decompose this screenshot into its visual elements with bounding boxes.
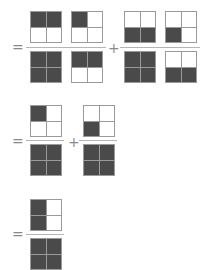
square-r1-t3-num: [124, 11, 156, 43]
fraction-bar-3: [26, 140, 64, 141]
square-r1-t2-num: [71, 11, 103, 43]
square-r2-t2-den: [83, 144, 115, 176]
square-r1-t4-den: [165, 51, 197, 83]
equals-sign-2: =: [12, 134, 24, 148]
square-r3-t1-den: [30, 238, 62, 270]
fraction-bar-5: [26, 234, 64, 235]
square-r1-t2-den: [71, 51, 103, 83]
square-r1-t1-num: [30, 11, 62, 43]
square-r1-t1-den: [30, 51, 62, 83]
plus-sign-1: +: [108, 41, 120, 55]
square-r2-t1-num: [30, 105, 62, 137]
fraction-bar-1: [26, 47, 106, 48]
square-r3-t1-num: [30, 199, 62, 231]
fraction-bar-4: [79, 140, 117, 141]
square-r1-t4-num: [165, 11, 197, 43]
equals-sign-1: =: [12, 40, 24, 54]
plus-sign-2: +: [68, 135, 80, 149]
fraction-bar-2: [120, 47, 200, 48]
square-r2-t1-den: [30, 144, 62, 176]
square-r1-t3-den: [124, 51, 156, 83]
equals-sign-3: =: [12, 227, 24, 241]
square-r2-t2-num: [83, 105, 115, 137]
